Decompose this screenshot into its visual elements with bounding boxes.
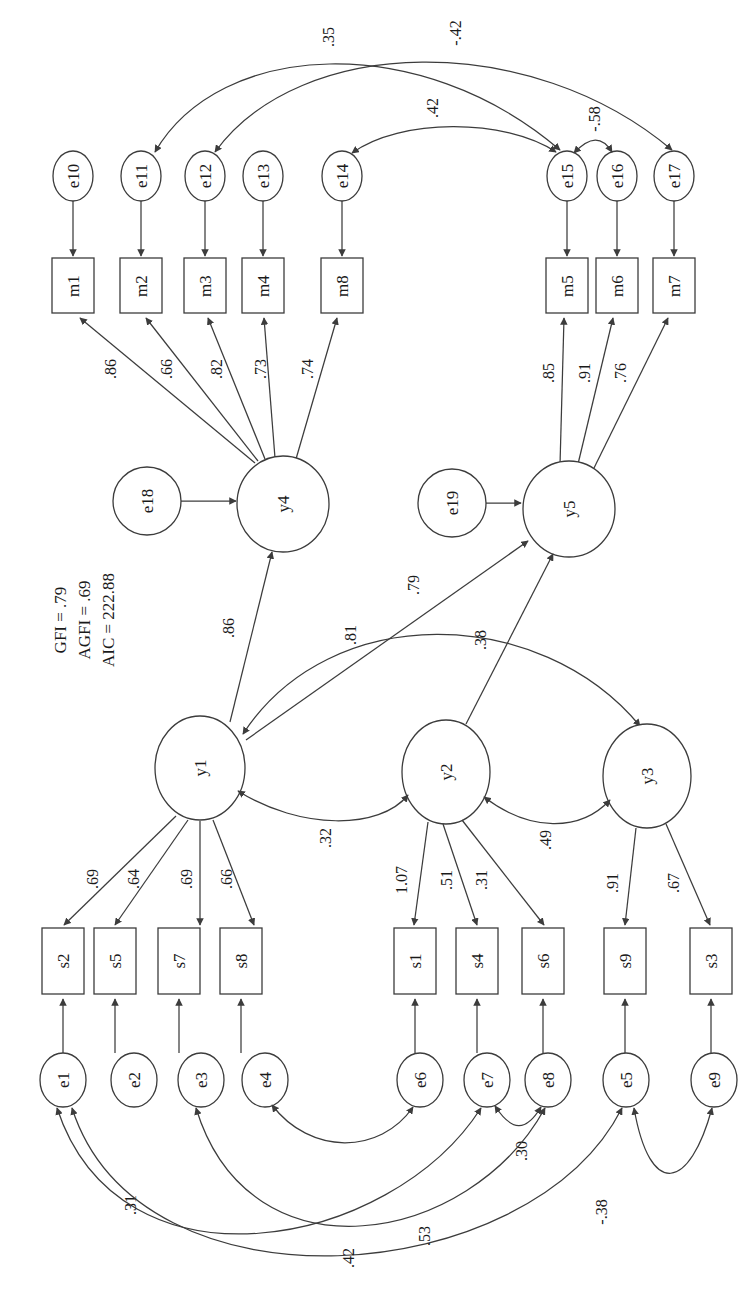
loading-y3-s9 — [625, 828, 636, 925]
error-node-e14-label: e14 — [333, 163, 352, 188]
observed-node-m2: m2 — [120, 258, 162, 313]
observed-node-m3-label: m3 — [196, 275, 215, 297]
latent-node-y2: y2 — [402, 720, 490, 824]
structural-y1-y5-label: .81 — [342, 625, 359, 645]
error-node-e19-label: e19 — [443, 491, 462, 516]
observed-node-m3: m3 — [184, 258, 226, 313]
observed-node-s7-label: s7 — [170, 953, 189, 969]
observed-node-s3: s3 — [690, 928, 732, 994]
observed-node-m4-label: m4 — [254, 275, 273, 297]
error-node-e2-label: e2 — [125, 1072, 144, 1088]
observed-node-s9: s9 — [604, 928, 646, 994]
observed-node-s3-label: s3 — [702, 953, 721, 968]
error-node-e10: e10 — [53, 151, 93, 201]
error-node-e4: e4 — [242, 1053, 288, 1107]
loading-y5-m7-label: .76 — [612, 363, 629, 383]
error-node-e5-label: e5 — [617, 1072, 636, 1088]
error-node-e3-label: e3 — [192, 1072, 211, 1088]
observed-node-s6-label: s6 — [534, 953, 553, 968]
observed-node-m1-label: m1 — [64, 275, 83, 297]
loading-y5-m5 — [560, 318, 564, 465]
latent-node-y4: y4 — [237, 456, 329, 552]
error-node-e12: e12 — [185, 151, 225, 201]
error-node-e14: e14 — [322, 151, 362, 201]
error-node-e1: e1 — [40, 1053, 86, 1107]
observed-node-s8: s8 — [220, 928, 262, 994]
covariance-y1-y2-label: .32 — [317, 828, 334, 848]
error-node-e8-label: e8 — [539, 1072, 558, 1088]
loading-y2-s6-label: .31 — [473, 870, 490, 890]
loading-y4-m4 — [264, 318, 275, 458]
error-node-e17-label: e17 — [665, 163, 684, 188]
covariance-e12-e17-label: -.42 — [447, 20, 464, 45]
observed-node-s2-label: s2 — [54, 953, 73, 968]
latent-node-y1: y1 — [155, 716, 245, 820]
latent-node-y1-label: y1 — [191, 760, 210, 777]
error-node-e9-label: e9 — [705, 1072, 724, 1088]
structural-y2-y5-label: .38 — [472, 630, 489, 650]
loading-y4-m1 — [80, 318, 255, 463]
observed-node-s7: s7 — [158, 928, 200, 994]
covariance-y1-y3 — [243, 634, 640, 734]
error-node-e7-label: e7 — [478, 1071, 497, 1088]
error-node-e17: e17 — [654, 151, 694, 201]
observed-node-m7: m7 — [653, 258, 695, 313]
covariance-e1-e5 — [72, 1108, 622, 1256]
observed-node-s2: s2 — [42, 928, 84, 994]
observed-node-s1-label: s1 — [406, 953, 425, 968]
latent-node-y5-label: y5 — [560, 501, 579, 518]
observed-node-m6-label: m6 — [608, 275, 627, 297]
loading-y4-m3-label: .82 — [208, 359, 225, 379]
covariance-e5-e9 — [634, 1108, 712, 1173]
covariance-e1-e7-label: .31 — [122, 1195, 139, 1215]
loading-y5-m7 — [594, 318, 668, 468]
error-node-e11: e11 — [121, 151, 161, 201]
covariance-e7-e8 — [495, 1106, 541, 1126]
covariance-e3-e8 — [196, 1108, 545, 1226]
error-node-e18-label: e18 — [138, 489, 157, 514]
covariance-e14-e15-label: .42 — [424, 98, 441, 118]
observed-node-m6: m6 — [596, 258, 638, 313]
error-node-e6-label: e6 — [411, 1072, 430, 1088]
observed-node-m4: m4 — [242, 258, 284, 313]
covariance-e3-e8-label: .53 — [416, 1226, 433, 1246]
error-node-e2: e2 — [111, 1053, 157, 1107]
covariance-e15-e16 — [574, 140, 612, 153]
loading-y1-s2 — [64, 816, 176, 925]
observed-node-s5-label: s5 — [106, 953, 125, 968]
error-node-e10-label: e10 — [64, 164, 83, 189]
loading-y4-m8-label: .74 — [299, 359, 316, 379]
covariance-e15-e16-label: -.58 — [586, 106, 603, 131]
covariance-y1-y3-label: .79 — [405, 575, 422, 595]
observed-node-m5: m5 — [546, 258, 588, 313]
structural-y1-y4-label: .86 — [220, 618, 237, 638]
loading-y4-m8 — [296, 318, 337, 459]
covariance-e11-e15 — [155, 64, 560, 152]
error-node-e8: e8 — [525, 1053, 571, 1107]
loading-y1-s2-label: .69 — [84, 869, 101, 889]
fit-index-gfi: GFI = .79 — [51, 587, 70, 654]
observed-node-s4-label: s4 — [468, 953, 487, 969]
observed-node-m5-label: m5 — [558, 275, 577, 297]
error-node-e3: e3 — [178, 1053, 224, 1107]
latent-node-y3: y3 — [603, 724, 691, 828]
error-node-e1-label: e1 — [54, 1072, 73, 1088]
covariance-e4-e6 — [272, 1105, 413, 1143]
covariance-e1-e5-label: .42 — [340, 1248, 357, 1268]
observed-node-m8-label: m8 — [333, 275, 352, 297]
loading-y1-s5-label: .64 — [125, 869, 142, 889]
loading-y4-m3 — [208, 318, 265, 459]
observed-node-m2-label: m2 — [132, 275, 151, 297]
loading-y2-s4-label: .51 — [438, 870, 455, 890]
error-node-e15: e15 — [547, 151, 587, 201]
covariance-e12-e17 — [215, 62, 672, 152]
latent-node-y5: y5 — [523, 461, 615, 557]
error-node-e9: e9 — [691, 1053, 737, 1107]
loading-y4-m1-label: .86 — [102, 359, 119, 379]
fit-index-aic: AIC = 222.88 — [99, 573, 118, 667]
error-node-e7: e7 — [464, 1053, 510, 1107]
loading-y2-s1-label: 1.07 — [393, 866, 410, 894]
loading-y4-m2 — [146, 318, 258, 461]
fit-index-agfi: AGFI = .69 — [75, 580, 94, 659]
error-node-e16: e16 — [597, 151, 637, 201]
